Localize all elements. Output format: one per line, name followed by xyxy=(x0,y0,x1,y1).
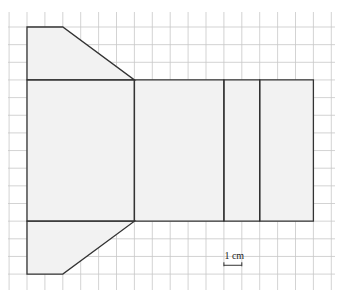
scale-label: 1 cm xyxy=(224,250,244,261)
scale-bar: 1 cm xyxy=(224,250,244,266)
left-rectangle-fill xyxy=(27,80,134,221)
narrow-rectangle-fill xyxy=(224,80,260,221)
middle-rectangle-fill xyxy=(134,80,224,221)
right-rectangle-fill xyxy=(260,80,314,221)
net-diagram: 1 cm xyxy=(0,0,340,298)
